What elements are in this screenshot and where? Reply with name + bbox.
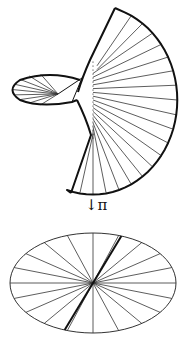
spine-dot: [92, 61, 93, 62]
spine-dot: [92, 73, 93, 74]
loop-ruling: [29, 94, 58, 103]
surface-ruling: [93, 57, 168, 81]
projection-map-label: ↓π: [85, 198, 107, 213]
fan-arc-boundary: [67, 8, 177, 195]
fan-upper-edge: [78, 8, 115, 92]
diagram-canvas: [0, 0, 187, 342]
spine-dot: [92, 133, 93, 134]
spine-dot: [92, 93, 93, 94]
surface-ruling: [93, 115, 143, 176]
spine-dot: [92, 125, 93, 126]
surface-ruling: [93, 44, 161, 77]
spine-dot: [92, 105, 93, 106]
spine-dot: [92, 101, 93, 102]
surface-ruling: [93, 127, 106, 194]
surface-ruling: [93, 85, 176, 88]
spine-dot: [92, 113, 93, 114]
surface-ruling: [93, 71, 173, 85]
fan-lower-edge: [71, 100, 91, 193]
projection-ellipse: [10, 233, 176, 333]
spine-dot: [92, 69, 93, 70]
spine-dot: [92, 77, 93, 78]
spine-dot: [92, 109, 93, 110]
spine-dot: [92, 97, 93, 98]
spine-dot: [92, 89, 93, 90]
spine-dot: [92, 137, 93, 138]
spine-dot: [92, 129, 93, 130]
spine-dot: [92, 85, 93, 86]
ruled-surface: [12, 8, 177, 195]
spine-dot: [92, 65, 93, 66]
spine-dot: [92, 121, 93, 122]
spine-dot: [92, 117, 93, 118]
spine-dot: [92, 81, 93, 82]
surface-ruling: [97, 16, 131, 66]
